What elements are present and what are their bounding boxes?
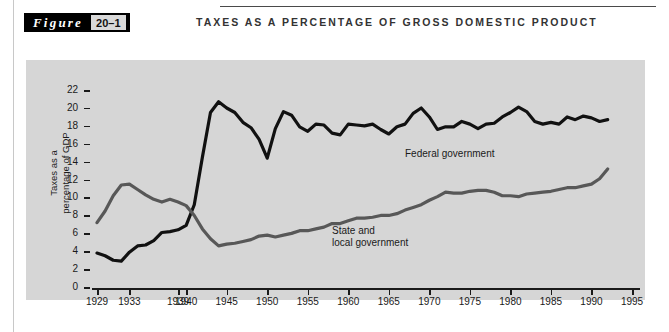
figure-header: Figure 20–1 TAXES AS A PERCENTAGE OF GRO… bbox=[24, 6, 649, 52]
x-tick-mark bbox=[470, 289, 472, 295]
x-tick-label: 1950 bbox=[247, 296, 287, 307]
y-tick-label: 0 bbox=[52, 281, 78, 292]
y-tick-label: 16 bbox=[52, 138, 78, 149]
x-tick-label: 1945 bbox=[207, 296, 247, 307]
series-label-line: local government bbox=[332, 237, 408, 249]
y-tick-mark bbox=[84, 90, 90, 92]
y-tick-label: 14 bbox=[52, 156, 78, 167]
x-tick-mark bbox=[591, 289, 593, 295]
x-tick-label: 1960 bbox=[328, 296, 368, 307]
x-tick-mark bbox=[348, 289, 350, 295]
x-tick-label: 1990 bbox=[571, 296, 611, 307]
x-tick-label: 1975 bbox=[450, 296, 490, 307]
x-tick-mark bbox=[227, 289, 229, 295]
x-tick-mark bbox=[510, 289, 512, 295]
x-tick-mark bbox=[267, 289, 269, 295]
x-tick-mark bbox=[97, 289, 99, 295]
x-axis-line bbox=[92, 288, 640, 290]
x-tick-mark bbox=[632, 289, 634, 295]
x-tick-label: 1933 bbox=[109, 296, 149, 307]
y-tick-mark bbox=[84, 233, 90, 235]
series-label-line: State and bbox=[332, 225, 408, 237]
y-tick-mark bbox=[84, 269, 90, 271]
y-tick-mark bbox=[84, 215, 90, 217]
x-tick-label: 1940 bbox=[166, 296, 206, 307]
figure-word: Figure bbox=[24, 13, 91, 32]
y-tick-label: 6 bbox=[52, 227, 78, 238]
series-label-state-local-government: State andlocal government bbox=[332, 225, 408, 249]
header-divider bbox=[220, 6, 656, 7]
y-tick-mark bbox=[84, 180, 90, 182]
x-tick-label: 1995 bbox=[612, 296, 652, 307]
x-tick-label: 1955 bbox=[288, 296, 328, 307]
x-tick-label: 1985 bbox=[531, 296, 571, 307]
y-tick-mark bbox=[84, 144, 90, 146]
y-tick-label: 22 bbox=[52, 84, 78, 95]
y-tick-mark bbox=[84, 287, 90, 289]
y-tick-label: 10 bbox=[52, 191, 78, 202]
x-tick-mark bbox=[429, 289, 431, 295]
y-tick-mark bbox=[84, 197, 90, 199]
x-tick-mark bbox=[129, 289, 131, 295]
chart-panel: Taxes as apercentage of GDP 024681012141… bbox=[26, 60, 645, 300]
figure-title: TAXES AS A PERCENTAGE OF GROSS DOMESTIC … bbox=[196, 15, 651, 30]
x-tick-label: 1980 bbox=[490, 296, 530, 307]
y-tick-label: 8 bbox=[52, 209, 78, 220]
page-left-rule bbox=[13, 0, 14, 332]
series-label-federal-government: Federal government bbox=[405, 148, 495, 160]
y-tick-mark bbox=[84, 108, 90, 110]
series-label-line: Federal government bbox=[405, 148, 495, 160]
y-tick-mark bbox=[84, 162, 90, 164]
x-tick-label: 1970 bbox=[409, 296, 449, 307]
x-tick-mark bbox=[178, 289, 180, 295]
line-chart bbox=[26, 60, 645, 300]
x-tick-mark bbox=[551, 289, 553, 295]
figure-number: 20–1 bbox=[91, 15, 125, 30]
y-tick-label: 12 bbox=[52, 174, 78, 185]
y-tick-mark bbox=[84, 126, 90, 128]
x-tick-label: 1965 bbox=[369, 296, 409, 307]
y-tick-label: 2 bbox=[52, 263, 78, 274]
x-tick-mark bbox=[389, 289, 391, 295]
y-tick-label: 4 bbox=[52, 245, 78, 256]
y-tick-label: 18 bbox=[52, 120, 78, 131]
x-tick-mark bbox=[308, 289, 310, 295]
y-tick-label: 20 bbox=[52, 102, 78, 113]
y-tick-mark bbox=[84, 251, 90, 253]
figure-tag: Figure 20–1 bbox=[24, 13, 130, 32]
x-tick-mark bbox=[186, 289, 188, 295]
